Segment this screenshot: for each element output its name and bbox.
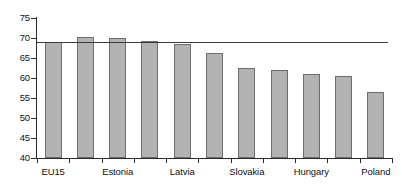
x-axis-tick <box>134 159 135 163</box>
y-axis-labels: 4045505560657075 <box>0 0 30 188</box>
x-axis-tick <box>263 159 264 163</box>
bar <box>45 42 62 158</box>
bar <box>335 76 352 158</box>
x-axis-tick <box>37 159 38 163</box>
y-axis-tick-label: 75 <box>0 13 30 23</box>
bar <box>303 74 320 158</box>
x-axis-tick <box>327 159 328 163</box>
x-axis-tick-label: Slovakia <box>229 167 264 177</box>
x-axis-tick-label: Poland <box>361 167 390 177</box>
bar <box>141 41 158 158</box>
y-axis-tick-label: 55 <box>0 93 30 103</box>
y-axis-tick-label: 65 <box>0 53 30 63</box>
y-axis-tick-label: 60 <box>0 73 30 83</box>
x-axis-tick <box>198 159 199 163</box>
x-axis-tick <box>392 159 393 163</box>
x-axis-tick-label: Latvia <box>170 167 195 177</box>
x-axis-tick <box>231 159 232 163</box>
y-axis-tick-label: 45 <box>0 133 30 143</box>
bar <box>206 53 223 158</box>
x-axis-tick <box>102 159 103 163</box>
y-axis-tick-label: 40 <box>0 153 30 163</box>
x-axis-tick-label: Estonia <box>102 167 133 177</box>
bar <box>271 70 288 158</box>
x-axis-tick-label: EU15 <box>41 167 64 177</box>
bar <box>238 68 255 158</box>
x-axis-tick <box>360 159 361 163</box>
x-axis-tick <box>166 159 167 163</box>
y-axis-tick-label: 70 <box>0 33 30 43</box>
bar <box>367 92 384 158</box>
y-axis-tick-label: 50 <box>0 113 30 123</box>
x-axis-tick <box>69 159 70 163</box>
reference-line <box>37 42 388 43</box>
x-axis-tick-label: Hungary <box>294 167 329 177</box>
bar <box>174 44 191 158</box>
plot-area <box>37 18 392 158</box>
bar <box>77 37 94 158</box>
bar <box>109 38 126 158</box>
x-axis-line <box>36 158 393 159</box>
x-axis-tick <box>295 159 296 163</box>
bar-chart: 4045505560657075 EU15EstoniaLatviaSlovak… <box>0 0 402 188</box>
